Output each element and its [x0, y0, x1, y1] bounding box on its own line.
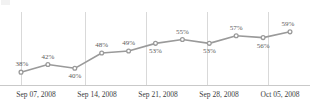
data-point-marker [127, 49, 131, 53]
data-point-label: 59% [282, 20, 295, 28]
data-point-marker [46, 63, 50, 67]
data-point-label: 48% [95, 41, 108, 49]
x-axis-tick-label: Sep 07, 2008 [16, 90, 55, 99]
data-point-marker [288, 30, 292, 34]
data-point-label: 57% [230, 24, 243, 32]
x-axis-tick-label: Sep 14, 2008 [77, 90, 116, 99]
data-point-marker [73, 66, 77, 70]
data-point-label: 38% [16, 60, 29, 68]
data-point-marker [154, 41, 158, 45]
data-point-marker [234, 34, 238, 38]
data-point-marker [181, 38, 185, 42]
plot-area: 38%42%40%48%49%53%55%53%57%56%59% [0, 12, 310, 85]
axis-baseline [0, 85, 310, 86]
data-point-label: 55% [176, 28, 189, 36]
x-axis-tick-label: Sep 28, 2008 [199, 90, 238, 99]
data-point-marker [100, 51, 104, 55]
data-point-label: 40% [68, 72, 81, 80]
data-point-marker [207, 41, 211, 45]
line-chart: 38%42%40%48%49%53%55%53%57%56%59% Sep 07… [0, 0, 310, 107]
data-point-marker [261, 36, 265, 40]
corner-artifact [1, 0, 10, 5]
data-point-marker [19, 70, 23, 74]
data-point-label: 49% [122, 39, 135, 47]
data-point-label: 53% [149, 47, 162, 55]
x-axis-tick-label: Oct 05, 2008 [261, 90, 300, 99]
data-point-label: 42% [41, 53, 54, 61]
data-point-label: 56% [257, 42, 270, 50]
data-point-label: 53% [203, 47, 216, 55]
x-axis-tick-label: Sep 21, 2008 [138, 90, 177, 99]
